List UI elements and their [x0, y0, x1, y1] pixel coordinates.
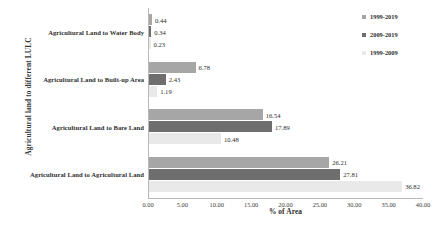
bar[interactable] — [149, 26, 151, 37]
bar-row[interactable]: 26.21 — [149, 157, 329, 168]
bar-row[interactable]: 0.44 — [149, 14, 152, 25]
legend-item[interactable]: 1999-2019 — [362, 12, 434, 21]
bar-row[interactable]: 27.81 — [149, 169, 340, 180]
bar[interactable] — [149, 74, 166, 85]
legend-item[interactable]: 1999-2009 — [362, 48, 434, 57]
bar-value-label: 17.89 — [275, 123, 290, 130]
x-axis-title: % of Area — [148, 207, 423, 216]
legend-item[interactable]: 2009-2019 — [362, 30, 434, 39]
category-label: Agricultural Land to Built-up Area — [43, 76, 144, 83]
bar-value-label: 27.81 — [343, 171, 358, 178]
x-axis-line — [148, 198, 423, 199]
bar-row[interactable]: 6.78 — [149, 62, 196, 73]
category-label: Agricultural Land to Bare Land — [52, 123, 144, 130]
bar[interactable] — [149, 14, 152, 25]
bar-row[interactable]: 2.43 — [149, 74, 166, 85]
bar-value-label: 2.43 — [169, 76, 181, 83]
bar-value-label: 36.82 — [405, 183, 420, 190]
legend-swatch-icon — [362, 33, 366, 37]
bar-row[interactable]: 36.82 — [149, 181, 402, 192]
bar-row[interactable]: 0.23 — [149, 38, 151, 49]
category-label: Agricultural Land to Agricultural Land — [30, 171, 144, 178]
bar-value-label: 0.44 — [155, 16, 167, 23]
bar[interactable] — [149, 62, 196, 73]
bar[interactable] — [149, 109, 263, 120]
bar-value-label: 16.54 — [266, 111, 281, 118]
category-label: Agricultural Land to Water Body — [48, 28, 144, 35]
bar-group: Agricultural Land to Bare Land16.5417.89… — [148, 103, 423, 151]
bar[interactable] — [149, 169, 340, 180]
legend-swatch-icon — [362, 51, 366, 55]
legend-label: 1999-2009 — [370, 49, 398, 56]
bar-row[interactable]: 10.48 — [149, 133, 221, 144]
bar-value-label: 10.48 — [224, 135, 239, 142]
bar-value-label: 1.19 — [160, 88, 172, 95]
bar-value-label: 0.34 — [154, 28, 166, 35]
bar[interactable] — [149, 157, 329, 168]
y-axis-title: Agricultural land to different LULC — [24, 17, 33, 177]
bar-value-label: 6.78 — [199, 64, 211, 71]
bar-value-label: 26.21 — [332, 159, 347, 166]
bar[interactable] — [149, 121, 272, 132]
bar-row[interactable]: 1.19 — [149, 86, 157, 97]
bar[interactable] — [149, 38, 151, 49]
bar-chart: Agricultural land to different LULC Agri… — [0, 0, 440, 237]
bar-row[interactable]: 16.54 — [149, 109, 263, 120]
bar-group: Agricultural Land to Agricultural Land26… — [148, 151, 423, 199]
bar-row[interactable]: 0.34 — [149, 26, 151, 37]
legend-label: 1999-2019 — [370, 13, 398, 20]
chart-legend: 1999-20192009-20191999-2009 — [362, 12, 434, 66]
bar[interactable] — [149, 133, 221, 144]
legend-label: 2009-2019 — [370, 31, 398, 38]
bar[interactable] — [149, 86, 157, 97]
bar-value-label: 0.23 — [154, 40, 166, 47]
bar[interactable] — [149, 181, 402, 192]
bar-row[interactable]: 17.89 — [149, 121, 272, 132]
legend-swatch-icon — [362, 15, 366, 19]
